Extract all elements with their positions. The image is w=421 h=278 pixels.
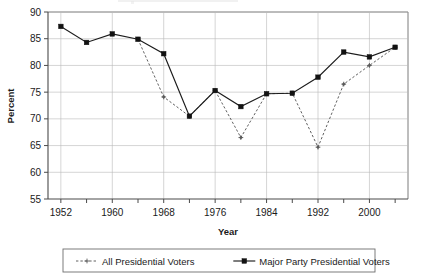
data-point-square <box>367 55 372 60</box>
x-tick-label: 1976 <box>204 207 227 218</box>
square-marker <box>242 259 247 264</box>
top-crop-artifact-dot <box>131 1 134 4</box>
x-tick-label: 1968 <box>153 207 176 218</box>
y-tick-label: 90 <box>30 7 42 18</box>
y-axis-title: Percent <box>5 88 16 124</box>
legend-label: Major Party Presidential Voters <box>259 256 390 267</box>
x-tick-label: 1992 <box>307 207 330 218</box>
data-point-square <box>393 45 398 50</box>
data-point-square <box>84 40 89 45</box>
y-tick-label: 85 <box>30 33 42 44</box>
y-axis-ticks: 5560657075808590 <box>30 7 48 205</box>
legend: All Presidential VotersMajor Party Presi… <box>63 249 390 272</box>
top-crop-artifact <box>118 0 238 2</box>
x-tick-label: 1952 <box>50 207 73 218</box>
legend-label: All Presidential Voters <box>102 256 195 267</box>
data-point-square <box>316 75 321 80</box>
data-point-square <box>290 91 295 96</box>
x-axis-title: Year <box>218 226 238 237</box>
data-point-square <box>341 50 346 55</box>
x-axis-ticks: 1952196019681976198419922000 <box>50 199 395 218</box>
plot-frame <box>48 12 408 199</box>
line-chart: 5560657075808590 19521960196819761984199… <box>0 0 421 278</box>
chart-container: 5560657075808590 19521960196819761984199… <box>0 0 421 278</box>
data-point-square <box>161 51 166 56</box>
x-tick-label: 2000 <box>358 207 381 218</box>
data-point-square <box>187 114 192 119</box>
y-tick-label: 70 <box>30 113 42 124</box>
y-tick-label: 75 <box>30 87 42 98</box>
data-point-square <box>110 32 115 37</box>
data-point-square <box>239 104 244 109</box>
y-tick-label: 55 <box>30 194 42 205</box>
x-tick-label: 1984 <box>255 207 278 218</box>
y-tick-label: 65 <box>30 140 42 151</box>
x-tick-label: 1960 <box>101 207 124 218</box>
data-point-square <box>59 24 64 29</box>
data-point-square <box>213 88 218 93</box>
data-point-square <box>136 37 141 42</box>
y-tick-label: 60 <box>30 167 42 178</box>
data-point-square <box>264 91 269 96</box>
y-tick-label: 80 <box>30 60 42 71</box>
